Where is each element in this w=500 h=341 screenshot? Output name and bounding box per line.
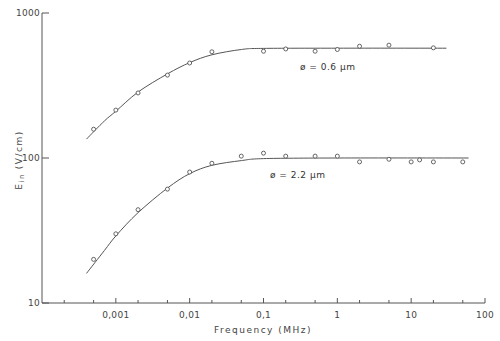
- x-tick-label: 100: [476, 310, 494, 320]
- data-point-marker: [92, 257, 96, 261]
- data-point-marker: [136, 208, 140, 212]
- y-axis-title-unit: (V/cm): [14, 130, 24, 169]
- y-tick-label: 1000: [16, 8, 40, 18]
- x-axis-title: Frequency (MHz): [214, 325, 312, 335]
- y-tick-label: 100: [22, 153, 40, 163]
- data-point-marker: [431, 160, 435, 164]
- data-point-marker: [92, 127, 96, 131]
- y-tick-label: 10: [28, 298, 40, 308]
- data-point-marker: [335, 154, 339, 158]
- data-point-marker: [431, 46, 435, 50]
- x-tick-label: 0,01: [179, 310, 200, 320]
- data-point-marker: [210, 50, 214, 54]
- data-point-marker: [114, 108, 118, 112]
- data-point-marker: [387, 43, 391, 47]
- x-tick-label: 0,001: [102, 310, 129, 320]
- chart: 1010010000,0010,010,1110100 Frequency (M…: [0, 0, 500, 341]
- data-point-marker: [284, 154, 288, 158]
- series-label-2-2um: ø = 2.2 µm: [270, 170, 325, 180]
- data-point-marker: [210, 161, 214, 165]
- data-point-marker: [461, 160, 465, 164]
- data-point-marker: [262, 151, 266, 155]
- data-point-marker: [239, 154, 243, 158]
- tick-labels: 1010010000,0010,010,1110100: [16, 8, 494, 320]
- y-axis-title-sub: in: [18, 173, 26, 182]
- data-point-marker: [358, 160, 362, 164]
- data-point-marker: [114, 232, 118, 236]
- fit-curve-0: [87, 48, 447, 139]
- data-point-marker: [387, 157, 391, 161]
- data-point-marker: [188, 170, 192, 174]
- data-points: [92, 43, 465, 261]
- data-point-marker: [165, 73, 169, 77]
- data-point-marker: [188, 61, 192, 65]
- data-point-marker: [418, 158, 422, 162]
- data-point-marker: [335, 48, 339, 52]
- data-point-marker: [358, 44, 362, 48]
- x-tick-label: 1: [334, 310, 340, 320]
- data-point-marker: [313, 154, 317, 158]
- x-tick-label: 10: [405, 310, 417, 320]
- data-point-marker: [284, 47, 288, 51]
- data-point-marker: [262, 49, 266, 53]
- x-tick-label: 0,1: [256, 310, 271, 320]
- data-point-marker: [136, 91, 140, 95]
- data-point-marker: [165, 187, 169, 191]
- y-axis-title-main: E: [14, 183, 24, 190]
- series-label-0-6um: ø = 0.6 µm: [300, 62, 355, 72]
- data-point-marker: [313, 49, 317, 53]
- data-point-marker: [409, 160, 413, 164]
